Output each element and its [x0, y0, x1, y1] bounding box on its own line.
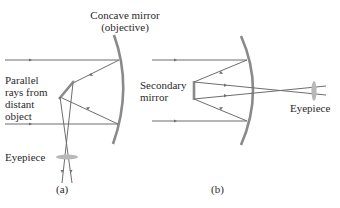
eyepiece-lens-b [311, 81, 316, 101]
objective-label-line1: Concave mirror [75, 9, 175, 21]
rays-label-line3: distant [5, 98, 47, 110]
objective-mirror-b [241, 36, 253, 145]
secondary-mirror-label: Secondary mirror [140, 79, 186, 103]
secondary-label-line1: Secondary [140, 79, 186, 91]
secondary-label-line2: mirror [140, 91, 186, 103]
arrow-icon [174, 120, 177, 123]
focus-ray-2-b [194, 86, 326, 99]
caption-a: (a) [56, 183, 68, 195]
eyepiece-label-b: Eyepiece [290, 102, 330, 114]
rays-label-line2: rays from [5, 86, 47, 98]
eyepiece-lens-a [56, 154, 78, 159]
objective-mirror-a [113, 35, 123, 144]
reflected-ray-top-b [194, 60, 247, 82]
objective-label-line2: (objective) [75, 21, 175, 33]
objective-label: Concave mirror (objective) [75, 9, 175, 33]
arrow-icon [224, 94, 227, 97]
arrow-icon [29, 59, 32, 62]
rays-label-line4: object [5, 110, 47, 122]
eyepiece-label-a: Eyepiece [5, 151, 45, 163]
reflected-ray-top-a [73, 60, 119, 83]
focus-ray-1-b [194, 82, 326, 95]
down-ray-1-a [62, 83, 73, 183]
reflected-ray-bottom-b [194, 99, 247, 121]
caption-b: (b) [211, 183, 224, 195]
parallel-rays-label: Parallel rays from distant object [5, 74, 47, 122]
arrow-icon [174, 59, 177, 62]
rays-label-line1: Parallel [5, 74, 47, 86]
arrow-icon [29, 123, 32, 126]
